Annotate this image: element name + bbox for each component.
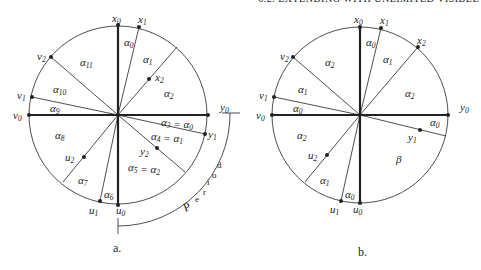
svg-text:d: d [217,160,222,170]
caption-a: a. [113,241,121,255]
svg-text:α3 = α0: α3 = α0 [161,116,193,132]
svg-text:α7: α7 [78,174,88,188]
svg-text:v1: v1 [259,89,268,103]
svg-text:α1: α1 [143,53,153,67]
figure-svg: x0 x1 x2 y0 y1 y2 u0 u1 u2 v0 v1 v2 α0 α… [0,0,481,270]
svg-text:y2: y2 [139,145,149,159]
svg-text:u1: u1 [89,204,98,218]
svg-text:α2: α2 [297,129,307,143]
svg-text:x2: x2 [154,71,164,85]
svg-text:u1: u1 [330,203,339,217]
svg-text:u2: u2 [65,151,75,165]
svg-text:α0: α0 [293,102,303,116]
svg-text:v1: v1 [17,89,26,103]
svg-text:β: β [395,153,402,165]
svg-text:α5 = α2: α5 = α2 [128,161,160,177]
svg-text:α1: α1 [320,174,330,188]
svg-text:u0: u0 [116,204,126,218]
svg-text:y1: y1 [407,131,417,145]
svg-text:α1: α1 [383,53,393,67]
svg-text:y0: y0 [459,101,469,115]
svg-text:r: r [203,187,206,197]
svg-text:u2: u2 [308,149,318,163]
svg-text:x1: x1 [137,13,147,27]
svg-text:x0: x0 [111,12,121,26]
svg-text:α1: α1 [298,83,308,97]
svg-text:v0: v0 [13,109,22,123]
svg-text:α2: α2 [164,87,174,101]
svg-text:x1: x1 [379,14,389,28]
svg-text:α0: α0 [366,36,376,50]
svg-text:α4 = α1: α4 = α1 [151,130,183,146]
svg-text:α0: α0 [430,116,440,130]
svg-text:α11: α11 [80,56,93,70]
svg-text:e: e [195,194,199,204]
svg-text:x2: x2 [416,34,426,48]
svg-text:v2: v2 [280,50,289,64]
svg-text:α2: α2 [405,87,415,101]
svg-text:α8: α8 [55,129,65,143]
svg-text:α9: α9 [50,102,60,116]
svg-text:v0: v0 [256,109,265,123]
svg-text:α6: α6 [104,188,114,202]
svg-text:P: P [181,199,192,215]
panel-b-labels: x0 x1 x2 y0 y1 u0 u1 u2 v0 v1 v2 α0 α1 α… [256,13,469,259]
svg-text:x0: x0 [353,13,363,27]
svg-text:α0: α0 [345,188,355,202]
svg-text:y0: y0 [219,101,229,115]
svg-text:u0: u0 [353,203,363,217]
svg-text:α0: α0 [124,36,134,50]
svg-text:v2: v2 [37,50,46,64]
svg-text:o: o [212,170,217,180]
caption-b: b. [358,245,367,259]
panel-a-labels: x0 x1 x2 y0 y1 y2 u0 u1 u2 v0 v1 v2 α0 α… [13,12,229,255]
svg-text:y1: y1 [207,128,217,142]
svg-text:α10: α10 [53,83,67,97]
svg-text:α2: α2 [325,56,335,70]
